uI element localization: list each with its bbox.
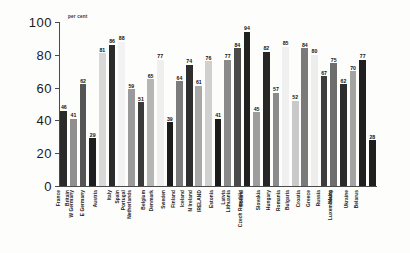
y-tick-label: 100 xyxy=(29,15,52,30)
bar-value-label: 67 xyxy=(321,70,327,76)
bar-value-label: 62 xyxy=(80,78,86,84)
bar-slot: 70 xyxy=(348,22,358,186)
x-label-slot: Belarus xyxy=(358,188,368,250)
bar-value-label: 28 xyxy=(369,134,375,140)
x-label-slot: Austria xyxy=(98,188,108,250)
bar-slot: 77 xyxy=(223,22,233,186)
x-axis-label: IRELAND xyxy=(197,190,202,212)
bar-value-label: 64 xyxy=(177,75,183,81)
bar-value-label: 82 xyxy=(263,45,269,51)
x-axis-line xyxy=(59,186,377,187)
bar-slot: 45 xyxy=(252,22,262,186)
bar-slot: 52 xyxy=(290,22,300,186)
x-axis-label: W Germany xyxy=(69,190,74,218)
x-axis-label: Ukraine xyxy=(344,190,349,208)
bar-slot: 61 xyxy=(194,22,204,186)
x-axis-label: N Ireland xyxy=(188,190,193,211)
bar: 46 xyxy=(60,111,67,186)
x-axis-label: Denmark xyxy=(150,190,155,211)
bar-value-label: 81 xyxy=(99,47,105,53)
bar-value-label: 41 xyxy=(215,112,221,118)
bar-slot: 86 xyxy=(107,22,117,186)
x-axis-label: Hungary xyxy=(266,190,271,210)
bar-series: 4641622981868859516577396474617641778494… xyxy=(59,22,377,186)
bar-value-label: 77 xyxy=(225,53,231,59)
bar: 77 xyxy=(359,60,366,186)
bar: 94 xyxy=(244,32,251,186)
bar-slot: 39 xyxy=(165,22,175,186)
y-tick-label: 60 xyxy=(37,80,52,95)
bar-slot: 75 xyxy=(329,22,339,186)
x-axis-label: Bulgaria xyxy=(285,190,290,210)
bar-slot: 46 xyxy=(59,22,69,186)
bar: 64 xyxy=(176,81,183,186)
bar-value-label: 77 xyxy=(360,53,366,59)
bar-slot: 84 xyxy=(233,22,243,186)
bar-slot: 74 xyxy=(184,22,194,186)
y-tick-mark xyxy=(55,186,60,187)
x-axis-label: Czech Republic xyxy=(238,190,243,227)
bar-value-label: 52 xyxy=(292,94,298,100)
bar: 52 xyxy=(292,101,299,186)
x-axis-label: Italy xyxy=(107,190,112,200)
bar-slot: 81 xyxy=(98,22,108,186)
x-axis-label: Estonia xyxy=(209,190,214,208)
y-tick-label: 80 xyxy=(37,47,52,62)
bar: 84 xyxy=(234,48,241,186)
x-axis-label: Belgium xyxy=(141,190,146,210)
bar-slot: 41 xyxy=(69,22,79,186)
bar: 29 xyxy=(89,138,96,186)
y-tick-label: 40 xyxy=(37,113,52,128)
x-axis-label: Netherlands xyxy=(127,190,132,219)
bar: 80 xyxy=(311,55,318,186)
bar-value-label: 62 xyxy=(341,78,347,84)
bar-slot: 28 xyxy=(368,22,378,186)
bar-slot: 59 xyxy=(126,22,136,186)
bar-value-label: 41 xyxy=(71,112,77,118)
bar-slot: 64 xyxy=(175,22,185,186)
x-axis-label: Belarus xyxy=(354,190,359,208)
bar: 65 xyxy=(147,79,154,186)
x-axis-label: Portugal xyxy=(121,190,126,210)
bar: 81 xyxy=(99,53,106,186)
y-tick-label: 20 xyxy=(37,146,52,161)
bar-value-label: 51 xyxy=(138,96,144,102)
x-axis-label: Spain xyxy=(115,190,120,204)
y-axis-unit-label: per cent xyxy=(68,14,87,19)
bar: 76 xyxy=(205,61,212,186)
bar-slot: 62 xyxy=(78,22,88,186)
bar-value-label: 86 xyxy=(109,38,115,44)
bar: 51 xyxy=(138,102,145,186)
bar: 62 xyxy=(80,84,87,186)
bar: 85 xyxy=(282,47,289,186)
bar: 77 xyxy=(224,60,231,186)
x-label-slot: Poland xyxy=(242,188,252,250)
bar-value-label: 80 xyxy=(312,48,318,54)
bar-value-label: 29 xyxy=(90,132,96,138)
bar-slot: 41 xyxy=(213,22,223,186)
plot-area: 4641622981868859516577396474617641778494… xyxy=(59,22,377,186)
bar: 88 xyxy=(118,42,125,186)
bar-slot: 65 xyxy=(146,22,156,186)
x-axis-label: Sweden xyxy=(160,190,165,209)
x-label-slot xyxy=(368,188,378,250)
x-axis-label: Slovakia xyxy=(256,190,261,210)
bar-value-label: 84 xyxy=(302,42,308,48)
bar-slot: 29 xyxy=(88,22,98,186)
bar-value-label: 77 xyxy=(157,53,163,59)
x-axis-label: Romania xyxy=(275,190,280,211)
x-axis-label: Austria xyxy=(94,190,99,207)
bar-slot: 76 xyxy=(204,22,214,186)
bar-slot: 84 xyxy=(300,22,310,186)
y-tick-label: 0 xyxy=(44,179,52,194)
bar-value-label: 94 xyxy=(244,25,250,31)
bar-value-label: 75 xyxy=(331,57,337,63)
bar-value-label: 74 xyxy=(186,58,192,64)
bar: 28 xyxy=(369,140,376,186)
bar-value-label: 76 xyxy=(206,55,212,61)
bar-value-label: 45 xyxy=(254,106,260,112)
bar: 75 xyxy=(330,63,337,186)
bar: 62 xyxy=(340,84,347,186)
x-axis-label: E Germany xyxy=(80,190,85,216)
bar: 41 xyxy=(70,119,77,186)
